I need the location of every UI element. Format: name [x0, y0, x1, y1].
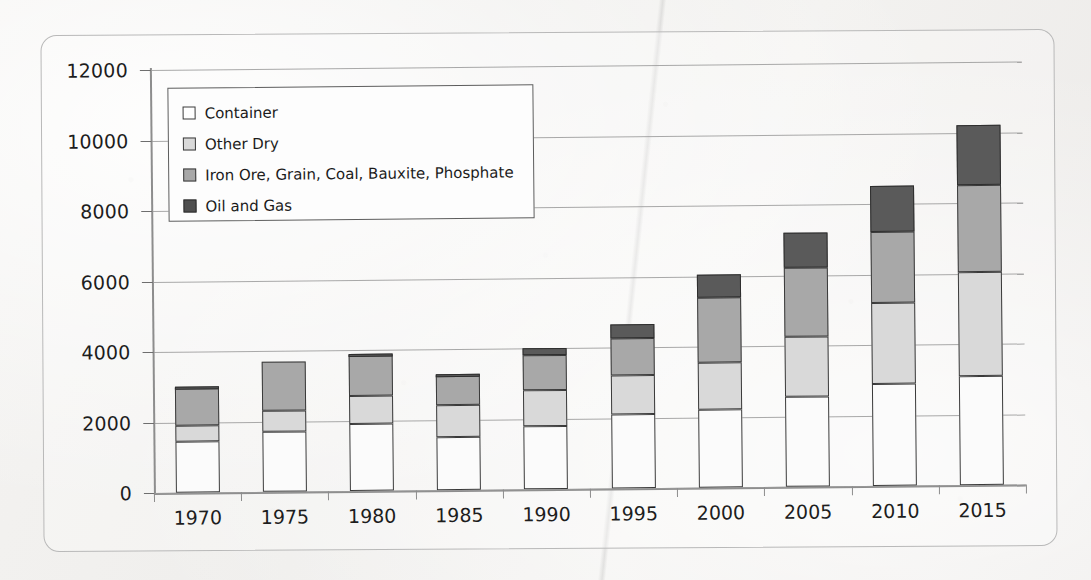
bar-segment-oil-and-gas: [437, 437, 482, 490]
bar-column: [432, 1, 481, 490]
bar-segment-oil-and-gas: [698, 410, 743, 488]
y-axis-tick-label: 4000: [56, 341, 130, 364]
x-axis-tick: [764, 487, 765, 496]
bar-segment-container: [349, 353, 393, 356]
bar-segment-other-dry: [261, 361, 305, 411]
bar-segment-iron-ore-grain-coal-bauxite-phosphate: [784, 337, 829, 397]
x-axis-tick: [503, 490, 504, 499]
bar-column: [171, 3, 220, 492]
x-axis-tick: [851, 486, 852, 495]
bar-segment-iron-ore-grain-coal-bauxite-phosphate: [175, 426, 219, 442]
bar-column: [868, 0, 917, 486]
x-axis-tick: [677, 488, 678, 497]
bar-segment-container: [870, 186, 914, 232]
legend-item-container: Container: [182, 94, 532, 128]
bar-segment-other-dry: [523, 355, 567, 391]
y-axis-tick: [140, 70, 151, 71]
bar-segment-iron-ore-grain-coal-bauxite-phosphate: [958, 271, 1003, 375]
bar-segment-other-dry: [784, 268, 829, 337]
bar-segment-other-dry: [349, 355, 393, 396]
legend-swatch-icon: [183, 106, 196, 119]
bar-segment-other-dry: [697, 297, 742, 363]
x-axis-label-2010: 2010: [847, 499, 943, 522]
legend-label: Iron Ore, Grain, Coal, Bauxite, Phosphat…: [205, 163, 514, 184]
y-axis-tick: [143, 352, 154, 353]
legend-label: Other Dry: [205, 134, 279, 153]
x-axis-tick: [154, 493, 155, 502]
bar-column: [694, 0, 743, 488]
y-axis-tick-label: 12000: [54, 59, 128, 82]
legend-swatch-icon: [183, 168, 196, 181]
x-axis-label-1990: 1990: [498, 503, 594, 526]
x-axis-tick: [328, 491, 329, 500]
legend-row-group: ContainerOther DryIron Ore, Grain, Coal,…: [182, 94, 533, 221]
bar-segment-oil-and-gas: [349, 424, 394, 491]
stacked-bar-chart: 020004000600080001000012000 197019751980…: [0, 0, 1091, 580]
bar-segment-iron-ore-grain-coal-bauxite-phosphate: [871, 302, 916, 383]
bar-segment-oil-and-gas: [785, 397, 830, 487]
bar-segment-container: [610, 324, 654, 339]
x-axis-label-1975: 1975: [237, 505, 333, 528]
legend-swatch-icon: [183, 199, 196, 212]
chart-legend: ContainerOther DryIron Ore, Grain, Coal,…: [167, 84, 534, 222]
bar-segment-other-dry: [871, 232, 916, 303]
bar-column: [956, 0, 1005, 485]
bar-column: [258, 2, 307, 491]
y-axis-tick: [141, 140, 152, 141]
legend-item-iron-ore-grain-coal-bauxite-phosphate: Iron Ore, Grain, Coal, Bauxite, Phosphat…: [183, 156, 533, 190]
legend-label: Oil and Gas: [205, 196, 292, 215]
bar-segment-other-dry: [610, 338, 654, 375]
bar-segment-iron-ore-grain-coal-bauxite-phosphate: [610, 375, 654, 414]
x-axis-label-2015: 2015: [934, 498, 1030, 521]
bar-column: [781, 0, 830, 487]
legend-label: Container: [205, 103, 278, 122]
bar-segment-oil-and-gas: [262, 432, 307, 492]
x-axis-label-1970: 1970: [150, 506, 246, 529]
legend-item-oil-and-gas: Oil and Gas: [183, 187, 533, 221]
bar-segment-container: [783, 233, 827, 269]
bar-column: [345, 2, 394, 491]
bar-segment-other-dry: [175, 388, 219, 426]
x-axis-tick: [939, 485, 940, 494]
x-axis-label-1995: 1995: [586, 502, 682, 525]
bar-segment-container: [436, 373, 480, 376]
bar-segment-container: [175, 387, 219, 390]
x-axis-label-2005: 2005: [760, 500, 856, 523]
bar-segment-oil-and-gas: [872, 383, 917, 486]
bar-segment-container: [957, 125, 1002, 185]
bar-segment-iron-ore-grain-coal-bauxite-phosphate: [697, 362, 741, 410]
legend-item-other-dry: Other Dry: [183, 125, 533, 159]
bar-segment-container: [523, 348, 567, 355]
y-axis-tick: [142, 281, 153, 282]
y-axis-tick-label: 0: [58, 482, 132, 505]
bar-segment-iron-ore-grain-coal-bauxite-phosphate: [349, 395, 393, 424]
bar-segment-iron-ore-grain-coal-bauxite-phosphate: [262, 410, 306, 432]
x-axis-label-2000: 2000: [673, 501, 769, 524]
bar-segment-oil-and-gas: [611, 414, 656, 488]
x-axis-tick: [590, 489, 591, 498]
x-axis-label-1980: 1980: [324, 504, 420, 527]
bar-segment-iron-ore-grain-coal-bauxite-phosphate: [436, 405, 480, 437]
x-axis-label-1985: 1985: [411, 504, 507, 527]
x-axis-tick: [416, 490, 417, 499]
y-axis-tick-label: 6000: [56, 271, 130, 294]
x-axis-tick: [241, 492, 242, 501]
bar-segment-oil-and-gas: [175, 442, 219, 493]
y-axis-tick-label: 2000: [57, 412, 131, 435]
bar-column: [607, 0, 656, 489]
bar-column: [520, 0, 569, 489]
bar-segment-other-dry: [436, 375, 480, 405]
bar-segment-oil-and-gas: [959, 375, 1004, 485]
y-axis-tick: [143, 422, 154, 423]
x-axis-tick: [1026, 485, 1027, 494]
bar-segment-iron-ore-grain-coal-bauxite-phosphate: [523, 390, 567, 426]
y-axis-tick: [141, 211, 152, 212]
y-axis-tick-label: 10000: [54, 130, 128, 153]
bar-segment-container: [697, 274, 741, 297]
legend-swatch-icon: [183, 137, 196, 150]
bar-segment-other-dry: [957, 185, 1002, 272]
bar-segment-oil-and-gas: [524, 425, 569, 489]
y-axis-tick-label: 8000: [55, 200, 129, 223]
